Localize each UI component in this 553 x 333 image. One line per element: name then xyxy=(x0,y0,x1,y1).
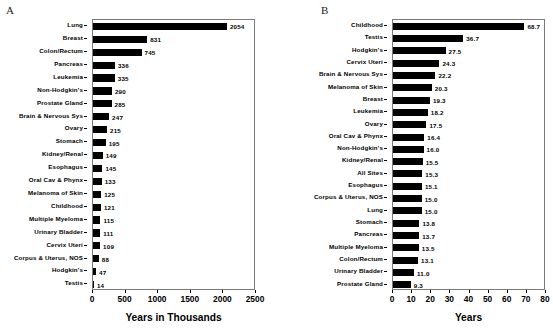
x-tick-label: 0 xyxy=(390,294,395,304)
panel-b-x-axis: 01020304050607080 xyxy=(392,290,545,310)
panel-a: A LungBreastColon/RectumPancreasLeukemia… xyxy=(0,0,277,333)
bar-row: 88 xyxy=(93,255,254,262)
bar xyxy=(393,109,428,116)
bar-row: 27.5 xyxy=(393,47,544,54)
y-tick-mark xyxy=(384,62,387,63)
bar-value-label: 133 xyxy=(105,178,116,185)
bar-value-label: 335 xyxy=(118,75,129,82)
bar-value-label: 745 xyxy=(145,49,156,56)
category-label: Hodgkin's xyxy=(352,47,388,53)
category-label: Childhood xyxy=(51,203,88,209)
y-tick-mark xyxy=(384,284,387,285)
bar xyxy=(93,268,96,275)
bar xyxy=(93,126,107,133)
category-label: Corpus & Uterus, NOS xyxy=(14,255,88,261)
bar xyxy=(93,255,99,262)
bar-value-label: 68.7 xyxy=(527,23,540,30)
panel-b-letter: B xyxy=(321,4,328,16)
category-label: Breast xyxy=(363,96,388,102)
bar-value-label: 17.5 xyxy=(429,121,442,128)
category-label: Multiple Myeloma xyxy=(29,216,88,222)
y-tick-mark xyxy=(384,74,387,75)
y-tick-mark xyxy=(384,222,387,223)
bar-row: 2054 xyxy=(93,23,254,30)
y-tick-mark xyxy=(384,50,387,51)
bar-value-label: 20.3 xyxy=(435,84,448,91)
bar-value-label: 22.2 xyxy=(438,72,451,79)
category-label: All Sites xyxy=(357,170,388,176)
panel-a-category-labels: LungBreastColon/RectumPancreasLeukemiaNo… xyxy=(0,19,88,290)
bar xyxy=(93,74,115,81)
bar xyxy=(93,23,227,30)
y-tick-mark xyxy=(384,185,387,186)
bar-row: 14 xyxy=(93,281,254,288)
bar-row: 24.3 xyxy=(393,60,544,67)
y-tick-mark xyxy=(384,148,387,149)
bar-row: 68.7 xyxy=(393,23,544,30)
bar-value-label: 109 xyxy=(103,242,114,249)
x-tick-label: 20 xyxy=(426,294,435,304)
x-tick-mark xyxy=(255,290,256,293)
panel-b-category-labels: ChildhoodTestisHodgkin'sCervix UteriBrai… xyxy=(277,19,388,290)
x-tick-mark xyxy=(430,290,431,293)
bar xyxy=(393,170,422,177)
bar-value-label: 247 xyxy=(112,113,123,120)
bar xyxy=(93,191,101,198)
bar-value-label: 16.0 xyxy=(427,146,440,153)
bar-row: 16.4 xyxy=(393,134,544,141)
x-tick-label: 80 xyxy=(540,294,549,304)
panel-b-axis-title: Years xyxy=(392,312,545,323)
bar-value-label: 88 xyxy=(102,255,109,262)
bar-value-label: 215 xyxy=(110,126,121,133)
bar-value-label: 285 xyxy=(115,100,126,107)
bar-value-label: 27.5 xyxy=(449,47,462,54)
y-tick-mark xyxy=(384,99,387,100)
x-tick-label: 40 xyxy=(464,294,473,304)
bar xyxy=(393,281,411,288)
bar-row: 831 xyxy=(93,36,254,43)
y-tick-mark xyxy=(384,271,387,272)
bar xyxy=(393,183,422,190)
y-tick-mark xyxy=(84,116,87,117)
y-tick-mark xyxy=(384,173,387,174)
y-tick-mark xyxy=(84,154,87,155)
bar xyxy=(93,242,100,249)
bar-row: 36.7 xyxy=(393,35,544,42)
y-tick-mark xyxy=(84,77,87,78)
bar-row: 15.1 xyxy=(393,183,544,190)
bar xyxy=(393,257,418,264)
y-tick-mark xyxy=(384,124,387,125)
y-tick-mark xyxy=(384,25,387,26)
y-tick-mark xyxy=(84,219,87,220)
y-tick-mark xyxy=(84,180,87,181)
bar-row: 16.0 xyxy=(393,146,544,153)
category-label: Oral Cav & Phynx xyxy=(329,133,388,139)
bar xyxy=(393,60,439,67)
bar xyxy=(393,146,424,153)
bar-row: 18.2 xyxy=(393,109,544,116)
bar-value-label: 16.4 xyxy=(427,134,440,141)
x-tick-label: 50 xyxy=(483,294,492,304)
bar xyxy=(393,72,435,79)
category-label: Breast xyxy=(63,35,88,41)
bar-row: 15.3 xyxy=(393,170,544,177)
y-tick-mark xyxy=(84,25,87,26)
x-tick-mark xyxy=(469,290,470,293)
category-label: Hodgkin's xyxy=(52,267,88,273)
category-label: Prostate Gland xyxy=(337,281,388,287)
bar-row: 247 xyxy=(93,113,254,120)
bar-value-label: 336 xyxy=(118,62,129,69)
y-tick-mark xyxy=(384,87,387,88)
category-label: Testis xyxy=(65,280,88,286)
x-tick-label: 30 xyxy=(445,294,454,304)
bar-row: 15.0 xyxy=(393,195,544,202)
bar-value-label: 36.7 xyxy=(466,35,479,42)
bar-row: 13.5 xyxy=(393,244,544,251)
bar xyxy=(393,244,419,251)
category-label: Brain & Nervous Sys xyxy=(319,71,388,77)
category-label: Ovary xyxy=(365,121,388,127)
bar xyxy=(393,207,422,214)
bar xyxy=(393,195,422,202)
bar-row: 121 xyxy=(93,204,254,211)
bar-row: 19.3 xyxy=(393,97,544,104)
